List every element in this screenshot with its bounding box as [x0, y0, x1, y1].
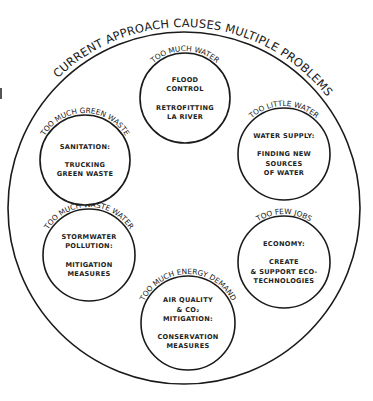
solution-line: SANITATION: [60, 143, 110, 151]
solution-line: & SUPPORT ECO- [250, 268, 317, 276]
solution-line: MEASURES [166, 342, 209, 350]
solution-line: GREEN WASTE [57, 170, 114, 178]
solution-line: POLLUTION: [65, 242, 113, 250]
problem-node-stormwater: TOO MUCH WASTE WATERSTORMWATERPOLLUTION:… [42, 200, 136, 301]
solution-line: RETROFITTING [156, 104, 214, 112]
solution-line: OF WATER [264, 169, 304, 177]
solution-line: STORMWATER [61, 233, 116, 241]
solution-line: AIR QUALITY [163, 296, 213, 304]
cropped-letter-fragment [0, 88, 2, 99]
solution-line: & CO₂ [177, 306, 200, 314]
solution-line: CREATE [269, 258, 299, 266]
solution-line: MITIGATION [65, 261, 112, 269]
problem-nodes: TOO MUCH WATERFLOODCONTROLRETROFITTINGLA… [38, 44, 330, 370]
problem-node-flood: TOO MUCH WATERFLOODCONTROLRETROFITTINGLA… [140, 44, 230, 143]
solution-line: SOURCES [266, 160, 303, 168]
node-circle [141, 276, 235, 370]
node-circle [140, 53, 230, 143]
solution-line: WATER SUPPLY: [253, 132, 315, 140]
problems-diagram: CURRENT APPROACH CAUSES MULTIPLE PROBLEM… [0, 0, 373, 401]
diagram-canvas: CURRENT APPROACH CAUSES MULTIPLE PROBLEM… [0, 0, 373, 401]
solution-line: TECHNOLOGIES [254, 277, 315, 285]
solution-line: FLOOD [172, 76, 199, 84]
solution-line: ECONOMY: [263, 240, 305, 248]
solution-line: FINDING NEW [257, 150, 312, 158]
node-circle [43, 209, 135, 301]
solution-text: SANITATION:TRUCKINGGREEN WASTE [57, 143, 114, 179]
problem-node-water-supply: TOO LITTLE WATERWATER SUPPLY:FINDING NEW… [238, 99, 330, 200]
problem-node-economy: TOO FEW JOBSECONOMY:CREATE& SUPPORT ECO-… [238, 207, 330, 308]
solution-line: TRUCKING [65, 161, 106, 169]
solution-line: LA RIVER [167, 113, 203, 121]
solution-line: MITIGATION: [163, 315, 213, 323]
problem-node-air-quality: TOO MUCH ENERGY DEMANDAIR QUALITY& CO₂MI… [137, 267, 238, 370]
solution-line: CONTROL [166, 85, 204, 93]
solution-line: MEASURES [67, 270, 110, 278]
solution-line: CONSERVATION [157, 333, 218, 341]
problem-node-sanitation: TOO MUCH GREEN WASTESANITATION:TRUCKINGG… [38, 106, 132, 205]
